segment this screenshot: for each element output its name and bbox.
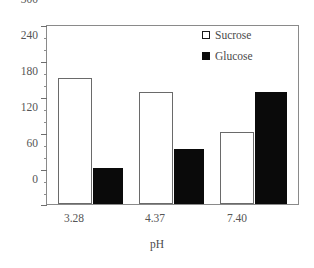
x-tick-label-4-37: 4.37: [125, 212, 185, 224]
legend-item-sucrose: Sucrose: [202, 26, 298, 44]
y-minor-tick: [44, 146, 47, 147]
legend-item-glucose: Glucose: [202, 47, 298, 65]
y-major-tick-180: [41, 98, 47, 99]
legend-label-sucrose: Sucrose: [215, 29, 251, 41]
y-minor-tick: [44, 50, 47, 51]
y-minor-tick: [44, 74, 47, 75]
x-tick-label-3-28: 3.28: [44, 212, 104, 224]
bar-glucose-7-40: [255, 92, 287, 204]
y-major-tick-120: [41, 134, 47, 135]
x-tick-label-7-40: 7.40: [207, 212, 267, 224]
y-tick-label-240: 240: [0, 30, 38, 42]
y-major-tick-240: [41, 62, 47, 63]
y-tick-label-120: 120: [0, 102, 38, 114]
y-tick-label-300: 300: [0, 0, 38, 6]
bar-sucrose-7-40: [220, 132, 254, 204]
y-tick-label-60: 60: [0, 138, 38, 150]
bar-glucose-4-37: [174, 149, 204, 204]
y-tick-label-180: 180: [0, 66, 38, 78]
y-tick-label-0: 0: [0, 174, 38, 186]
y-major-tick-60: [41, 170, 47, 171]
y-minor-tick: [44, 38, 47, 39]
legend-label-glucose: Glucose: [215, 50, 253, 62]
y-major-tick-300: [41, 26, 47, 27]
y-axis-labels: 300 240 180 120 60 0: [0, 0, 46, 180]
hollow-square-icon: [202, 31, 210, 39]
y-minor-tick: [44, 158, 47, 159]
plot-area: Sucrose Glucose: [46, 25, 299, 205]
y-minor-tick: [44, 194, 47, 195]
solid-square-icon: [202, 52, 210, 60]
y-major-tick-0: [41, 205, 47, 206]
bar-sucrose-3-28: [58, 78, 92, 204]
chart-legend: Sucrose Glucose: [202, 26, 298, 68]
x-axis-title: pH: [0, 238, 314, 250]
y-minor-tick: [44, 110, 47, 111]
y-minor-tick: [44, 86, 47, 87]
y-minor-tick: [44, 122, 47, 123]
y-minor-tick: [44, 182, 47, 183]
bar-sucrose-4-37: [139, 92, 173, 204]
bar-glucose-3-28: [93, 168, 123, 204]
bar-chart-figure: 300 240 180 120 60 0: [0, 0, 314, 268]
